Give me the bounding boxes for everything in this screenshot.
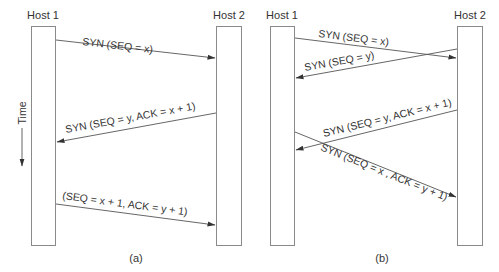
panel-b-host2-label: Host 2 bbox=[454, 9, 486, 21]
panel-b-msg2-label: SYN (SEQ = y) bbox=[303, 49, 375, 73]
panel-a-msg2-label: SYN (SEQ = y, ACK = x + 1) bbox=[64, 100, 196, 135]
tcp-handshake-diagram: Host 1 Host 2 Time SYN (SEQ = x) SYN (SE… bbox=[0, 0, 499, 272]
panel-b-host1-timeline bbox=[271, 27, 295, 246]
panel-a-msg1-label: SYN (SEQ = x) bbox=[82, 35, 154, 55]
panel-a: Host 1 Host 2 Time SYN (SEQ = x) SYN (SE… bbox=[16, 9, 245, 264]
panel-b: Host 1 Host 2 SYN (SEQ = x) SYN (SEQ = y… bbox=[266, 9, 486, 264]
panel-a-host2-label: Host 2 bbox=[213, 9, 245, 21]
panel-b-msg3-label: SYN (SEQ = y, ACK = x + 1) bbox=[322, 96, 453, 139]
panel-a-caption: (a) bbox=[129, 252, 142, 264]
panel-b-host2-timeline bbox=[458, 27, 483, 246]
time-label: Time bbox=[16, 101, 28, 124]
panel-b-msg4-label: SYN (SEQ = x , ACK = y + 1) bbox=[319, 141, 449, 203]
panel-a-host1-label: Host 1 bbox=[27, 9, 59, 21]
panel-a-host2-timeline bbox=[217, 27, 242, 246]
panel-b-caption: (b) bbox=[375, 252, 388, 264]
panel-b-host1-label: Host 1 bbox=[266, 9, 298, 21]
time-axis: Time bbox=[16, 101, 28, 166]
panel-b-msg1-label: SYN (SEQ = x) bbox=[318, 27, 390, 48]
panel-a-host1-timeline bbox=[32, 27, 56, 246]
